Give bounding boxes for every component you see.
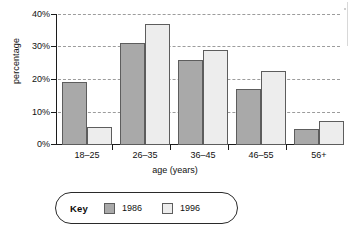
legend-label-1986: 1986 (122, 203, 142, 213)
legend-box: Key 1986 1996 (55, 192, 238, 224)
legend-item-1996: 1996 (162, 203, 200, 214)
x-axis-title: age (years) (0, 165, 350, 175)
y-tick-label-0: 0% (37, 139, 50, 149)
y-tick-label-10: 10% (32, 107, 50, 117)
x-category-label-18-25: 18–25 (57, 150, 117, 160)
legend-swatch-1986-icon (104, 203, 115, 214)
bar-1996-56-plus (319, 121, 344, 145)
bar-1996-46-55 (261, 71, 286, 145)
y-tick-label-20: 20% (32, 74, 50, 84)
y-axis-tick-labels: 40% 30% 20% 10% 0% (18, 0, 50, 182)
bar-1986-56-plus (294, 129, 319, 145)
bar-1996-26-35 (145, 24, 170, 145)
bar-1996-36-45 (203, 50, 228, 145)
y-tick-label-30: 30% (32, 41, 50, 51)
scan-artifact-dot (344, 8, 346, 10)
x-category-label-26-35: 26–35 (115, 150, 175, 160)
x-category-label-36-45: 36–45 (173, 150, 233, 160)
legend-title: Key (70, 203, 88, 214)
x-category-label-56-plus: 56+ (289, 150, 349, 160)
bar-1986-36-45 (178, 60, 203, 145)
bar-1996-18-25 (87, 127, 112, 145)
legend-item-1986: 1986 (104, 203, 142, 214)
bar-1986-18-25 (62, 82, 87, 145)
gridline-30 (58, 46, 340, 47)
legend-label-1996: 1996 (180, 203, 200, 213)
legend-swatch-1996-icon (162, 203, 173, 214)
plot-area: percentage 40% 30% 20% 10% 0% (0, 0, 350, 182)
gridline-40 (58, 14, 340, 15)
y-axis-line (56, 14, 57, 145)
bar-1986-26-35 (120, 43, 145, 145)
bar-chart-figure: percentage 40% 30% 20% 10% 0% (0, 0, 350, 238)
x-category-label-46-55: 46–55 (231, 150, 291, 160)
scan-artifact-edge (347, 2, 348, 46)
y-tick-label-40: 40% (32, 9, 50, 19)
bar-1986-46-55 (236, 89, 261, 145)
